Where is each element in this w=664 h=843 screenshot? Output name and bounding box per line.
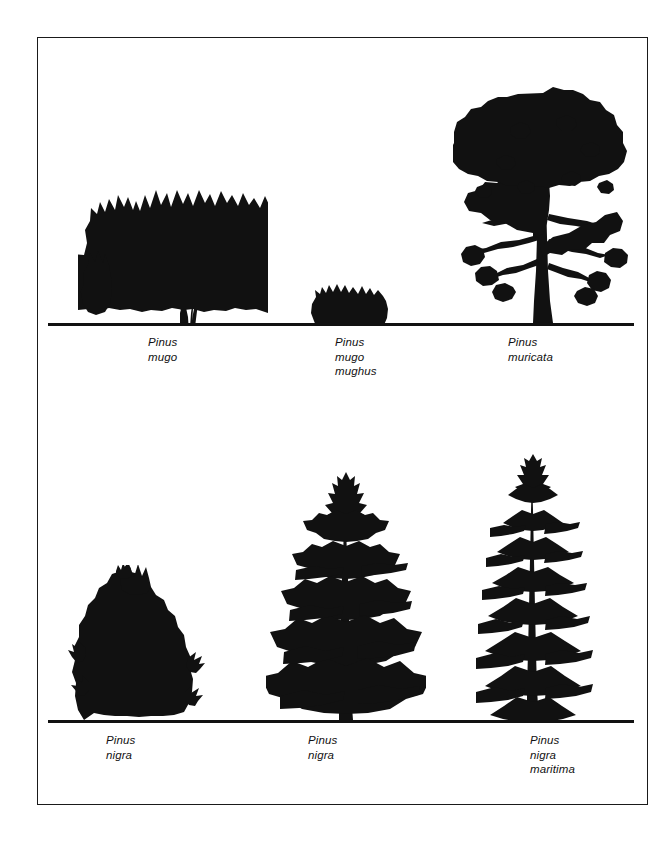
specimen-pinus-nigra-bush: [68, 565, 208, 720]
ground-line-bottom: [48, 720, 634, 723]
specimen-pinus-nigra-tree: [266, 470, 426, 720]
silhouette-pinus-nigra-bush: [68, 565, 208, 720]
specimen-row-top: Pinus mugo Pinus mugo mughus: [38, 38, 649, 368]
silhouette-pinus-nigra-tree: [266, 470, 426, 720]
plate-frame: Pinus mugo Pinus mugo mughus: [37, 37, 648, 805]
silhouette-pinus-mugo: [78, 143, 268, 323]
ground-line-top: [48, 323, 634, 326]
illustration-plate: Pinus mugo Pinus mugo mughus: [0, 0, 664, 843]
silhouette-pinus-muricata: [453, 83, 633, 323]
specimen-pinus-muricata: [453, 83, 633, 323]
silhouette-pinus-nigra-maritima: [468, 452, 598, 720]
label-pinus-nigra-tree: Pinus nigra: [308, 733, 337, 762]
label-pinus-nigra-bush: Pinus nigra: [106, 733, 135, 762]
silhouette-pinus-mugo-mughus: [308, 275, 408, 323]
specimen-pinus-nigra-maritima: [468, 452, 598, 720]
label-pinus-muricata: Pinus muricata: [508, 335, 553, 364]
specimen-row-bottom: Pinus nigra: [38, 368, 649, 806]
specimen-pinus-mugo-mughus: [308, 275, 408, 323]
label-pinus-mugo: Pinus mugo: [148, 335, 177, 364]
specimen-pinus-mugo: [78, 143, 268, 323]
label-pinus-nigra-maritima: Pinus nigra maritima: [530, 733, 575, 777]
